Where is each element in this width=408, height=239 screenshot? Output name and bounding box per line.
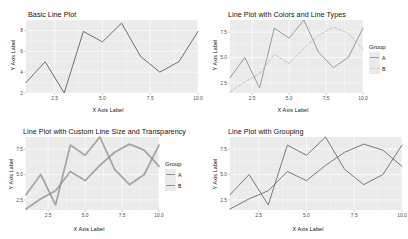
svg-text:7.5: 7.5 [351, 213, 358, 218]
svg-text:2.5: 2.5 [249, 96, 256, 101]
legend-swatch-a-icon [369, 52, 380, 63]
svg-text:8: 8 [20, 28, 23, 33]
svg-text:5.0: 5.0 [286, 96, 293, 101]
legend-item-b[interactable]: B [165, 180, 182, 191]
svg-text:2.5: 2.5 [45, 213, 52, 218]
svg-text:7.5: 7.5 [220, 147, 227, 152]
plot-area: 2.55.07.510.02.55.07.5 [0, 135, 165, 225]
legend-item-a[interactable]: A [369, 52, 386, 63]
plot-area: 2.55.07.510.02468 [0, 18, 204, 108]
legend: Group A B [369, 44, 386, 74]
svg-text:10.0: 10.0 [154, 213, 164, 218]
svg-text:5.0: 5.0 [220, 172, 227, 177]
svg-text:5.0: 5.0 [82, 213, 89, 218]
plot-panel-grouping: Line Plot with Grouping Y Axis Label X A… [204, 119, 408, 239]
svg-text:2.5: 2.5 [51, 96, 58, 101]
svg-text:7.5: 7.5 [323, 96, 330, 101]
plot-panel-colors-and-line-types: Line Plot with Colors and Line Types Y A… [204, 0, 408, 119]
x-axis-label: X Axis Label [24, 226, 154, 232]
figure-grid: Basic Line Plot Y Axis Label X Axis Labe… [0, 0, 408, 239]
svg-text:2: 2 [20, 91, 23, 96]
legend-title: Group [165, 161, 182, 167]
x-axis-label: X Axis Label [228, 226, 388, 232]
legend-label-a: A [382, 55, 385, 61]
plot-panel-custom-line-size-and-transparency: Line Plot with Custom Line Size and Tran… [0, 119, 204, 239]
plot-area: 2.55.07.510.02.55.07.5 [204, 135, 408, 225]
legend-swatch-b-icon [369, 63, 380, 74]
svg-text:5.0: 5.0 [16, 172, 23, 177]
plot-panel-basic-line-plot: Basic Line Plot Y Axis Label X Axis Labe… [0, 0, 204, 119]
svg-text:5.0: 5.0 [220, 55, 227, 60]
svg-text:10.0: 10.0 [193, 96, 203, 101]
svg-text:2.5: 2.5 [16, 198, 23, 203]
svg-text:2.5: 2.5 [255, 213, 262, 218]
svg-text:5.0: 5.0 [303, 213, 310, 218]
svg-text:7.5: 7.5 [16, 147, 23, 152]
svg-text:10.0: 10.0 [397, 213, 407, 218]
legend-swatch-b-icon [165, 180, 176, 191]
svg-text:7.5: 7.5 [119, 213, 126, 218]
svg-text:4: 4 [20, 70, 23, 75]
legend-item-b[interactable]: B [369, 63, 386, 74]
svg-text:7.5: 7.5 [220, 30, 227, 35]
legend-label-a: A [178, 172, 181, 178]
svg-text:5.0: 5.0 [99, 96, 106, 101]
plot-area: 2.55.07.510.02.55.07.5 [204, 18, 369, 108]
legend-label-b: B [178, 183, 181, 189]
svg-text:6: 6 [20, 49, 23, 54]
legend: Group A B [165, 161, 182, 191]
legend-swatch-a-icon [165, 169, 176, 180]
svg-text:2.5: 2.5 [220, 81, 227, 86]
legend-label-b: B [382, 66, 385, 72]
svg-text:7.5: 7.5 [147, 96, 154, 101]
svg-text:2.5: 2.5 [220, 198, 227, 203]
svg-text:10.0: 10.0 [358, 96, 368, 101]
legend-title: Group [369, 44, 386, 50]
legend-item-a[interactable]: A [165, 169, 182, 180]
